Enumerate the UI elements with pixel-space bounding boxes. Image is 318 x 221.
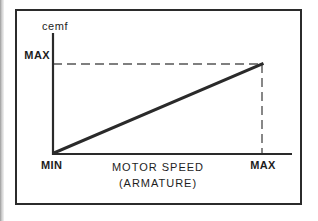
x-axis-max-tick-label: MAX bbox=[243, 160, 283, 171]
x-axis-title-line-1: MOTOR SPEED bbox=[88, 162, 228, 173]
data-series-line bbox=[54, 64, 262, 153]
x-axis-min-tick-label: MIN bbox=[41, 160, 62, 171]
x-axis-title-line-2: (ARMATURE) bbox=[88, 178, 228, 189]
y-axis-title: cemf bbox=[42, 21, 68, 32]
y-axis-max-tick-label: MAX bbox=[12, 50, 50, 61]
